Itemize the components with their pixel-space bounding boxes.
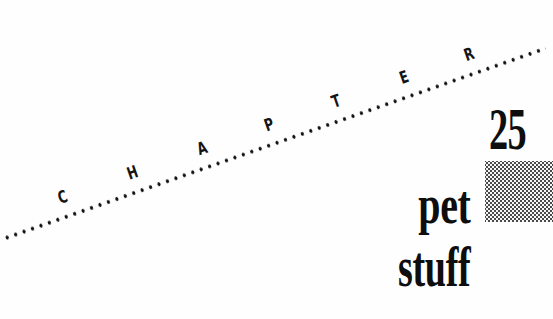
halftone-pattern-box (485, 161, 553, 222)
chapter-letter-c: C (54, 186, 70, 208)
chapter-number: 25 (489, 99, 521, 159)
chapter-letter-a: A (194, 137, 210, 159)
chapter-letter-e: E (396, 66, 412, 88)
chapter-title-line-2: stuff (398, 239, 470, 295)
chapter-letter-h: H (124, 161, 140, 183)
chapter-letter-r: R (461, 43, 477, 65)
chapter-letter-p: P (261, 113, 277, 135)
chapter-title-line-1: pet (418, 178, 470, 232)
chapter-letter-t: T (328, 90, 344, 112)
